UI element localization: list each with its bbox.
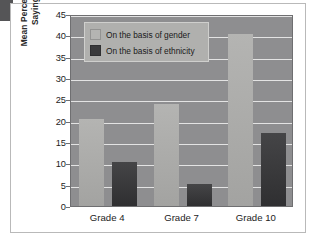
x-axis-label-group: Grade 4Grade 7Grade 10 bbox=[70, 210, 293, 228]
figure-page: Mean Percentage Saying “It’s OK” to Excl… bbox=[0, 0, 321, 246]
chart-legend: On the basis of gender On the basis of e… bbox=[84, 22, 209, 62]
plot-area: On the basis of gender On the basis of e… bbox=[70, 15, 293, 207]
gridline bbox=[71, 101, 292, 102]
legend-swatch-ethnicity bbox=[90, 45, 101, 56]
y-axis-title-line-1: Mean Percentage Saying bbox=[19, 0, 41, 58]
gridline bbox=[71, 16, 292, 17]
x-axis-tick-label: Grade 4 bbox=[90, 212, 125, 223]
legend-item-ethnicity: On the basis of ethnicity bbox=[90, 43, 204, 58]
legend-label-ethnicity: On the basis of ethnicity bbox=[106, 46, 195, 56]
bar-grade-7-ethnicity bbox=[187, 184, 212, 206]
bar-grade-10-gender bbox=[228, 34, 253, 206]
x-axis-tick-label: Grade 7 bbox=[164, 212, 199, 223]
legend-swatch-gender bbox=[90, 29, 101, 40]
bar-grade-4-ethnicity bbox=[112, 162, 137, 206]
gridline bbox=[71, 80, 292, 81]
legend-item-gender: On the basis of gender bbox=[90, 27, 204, 42]
y-axis-title: Mean Percentage Saying “It’s OK” to Excl… bbox=[17, 0, 43, 58]
bar-grade-4-gender bbox=[79, 119, 104, 206]
legend-label-gender: On the basis of gender bbox=[106, 30, 190, 40]
bar-grade-7-gender bbox=[154, 104, 179, 206]
bar-grade-10-ethnicity bbox=[261, 133, 286, 206]
x-axis-tick-label: Grade 10 bbox=[236, 212, 276, 223]
